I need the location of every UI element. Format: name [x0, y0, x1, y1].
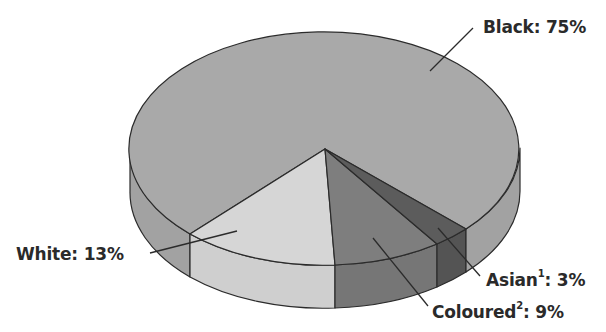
pie-tops — [129, 32, 519, 265]
label-white: White: 13% — [16, 244, 124, 264]
label-black: Black: 75% — [483, 17, 586, 37]
label-coloured: Coloured2: 9% — [432, 302, 564, 322]
label-asian: Asian1: 3% — [486, 270, 585, 290]
